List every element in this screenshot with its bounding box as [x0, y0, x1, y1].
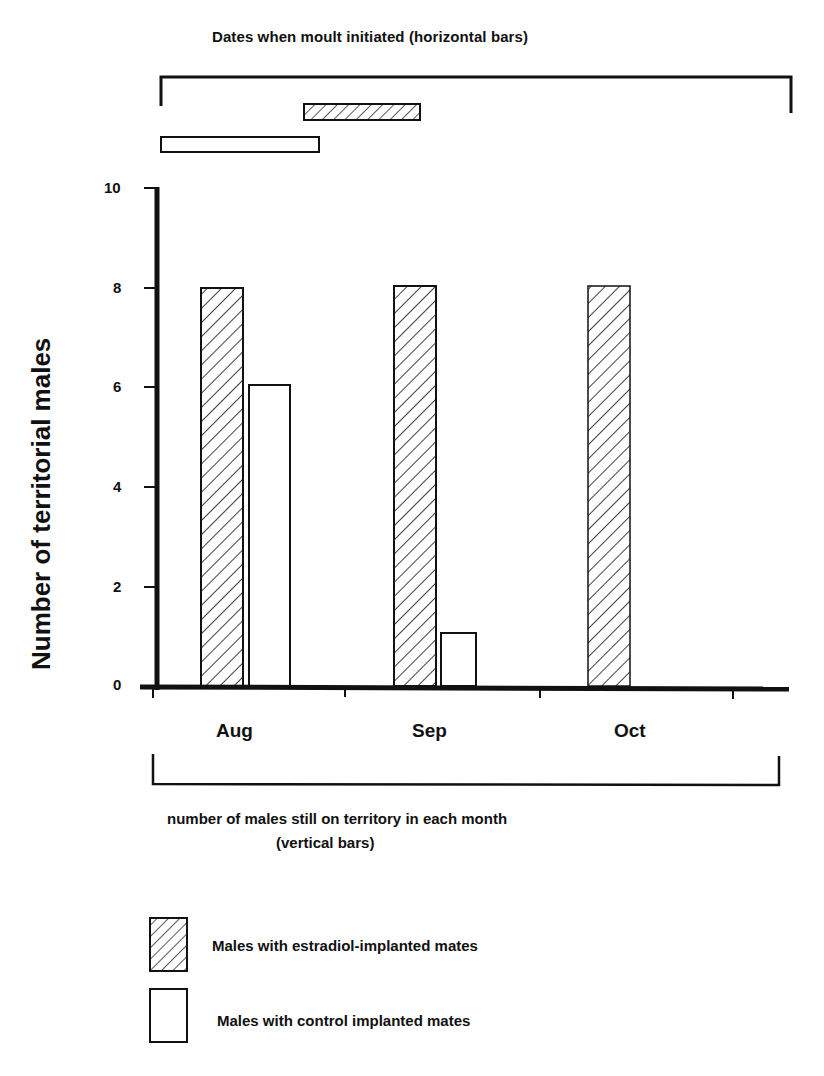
bar-aug-estradiol: [201, 288, 243, 686]
y-axis-label: Number of territorial males: [26, 338, 57, 670]
bar-sep-estradiol: [394, 286, 436, 686]
y-axis: [144, 187, 157, 690]
moult-bar-control: [161, 137, 319, 152]
bar-oct-estradiol: [588, 286, 630, 686]
month-label-oct: Oct: [614, 720, 646, 742]
legend-label-estradiol: Males with estradiol-implanted mates: [212, 937, 478, 954]
legend-swatch-control: [150, 989, 187, 1042]
top-bracket: [161, 77, 791, 113]
bar-sep-control: [441, 633, 476, 686]
legend-swatch-estradiol: [150, 918, 187, 971]
x-axis: [140, 687, 789, 699]
top-title: Dates when moult initiated (horizontal b…: [212, 28, 528, 45]
month-label-sep: Sep: [412, 720, 447, 742]
chart-graphics: [0, 0, 824, 1076]
y-tick-2: 2: [113, 578, 121, 595]
y-tick-10: 10: [104, 179, 121, 196]
month-label-aug: Aug: [216, 720, 253, 742]
y-tick-4: 4: [113, 478, 121, 495]
y-tick-6: 6: [113, 378, 121, 395]
bottom-caption-line2: (vertical bars): [276, 834, 374, 851]
bottom-caption-line1: number of males still on territory in ea…: [167, 810, 507, 827]
legend-label-control: Males with control implanted mates: [217, 1012, 470, 1029]
y-tick-8: 8: [113, 279, 121, 296]
bar-aug-control: [249, 385, 290, 686]
y-tick-0: 0: [113, 676, 121, 693]
moult-bar-estradiol: [304, 104, 420, 120]
bottom-bracket: [153, 754, 779, 785]
